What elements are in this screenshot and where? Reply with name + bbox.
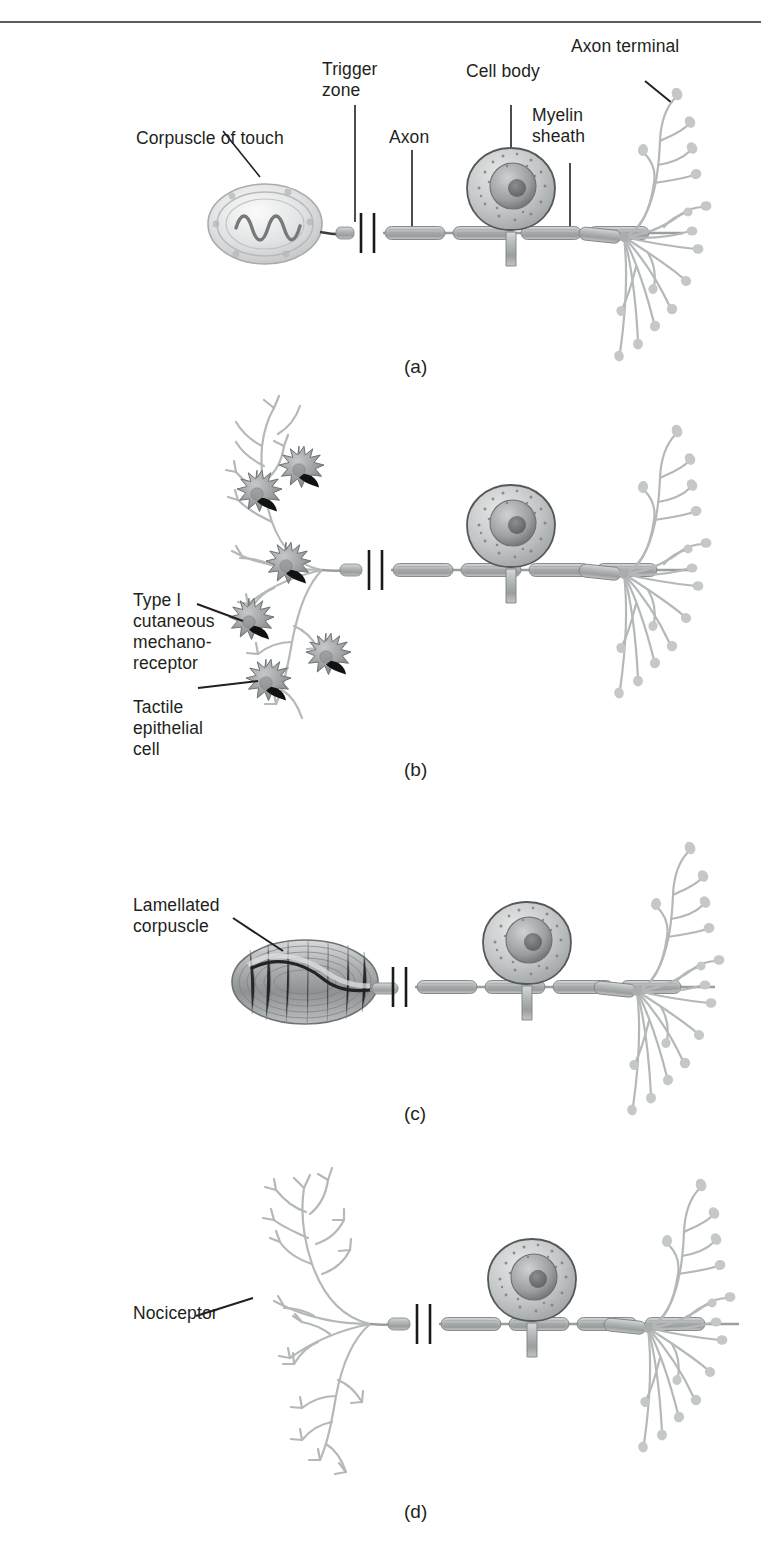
label-tactile-line3: cell [133, 739, 160, 760]
label-tactile-line1: Tactile [133, 697, 183, 718]
label-cell-body: Cell body [466, 61, 540, 82]
panel-a-artwork [208, 81, 711, 362]
panel-d-artwork [196, 1168, 739, 1474]
leader-tactile-epithelial-cell [198, 681, 258, 688]
leader-axon-terminal [645, 81, 672, 103]
label-myelin-sheath-line1: Myelin [532, 105, 583, 126]
label-type-i-line1: Type I [133, 590, 181, 611]
label-nociceptor: Nociceptor [133, 1303, 218, 1324]
lamellated-corpuscle-icon [232, 940, 378, 1024]
caption-panel-d: (d) [404, 1501, 427, 1523]
panel-c-artwork [232, 840, 724, 1116]
label-trigger-zone-line1: Trigger [322, 59, 377, 80]
type-i-receptor-group [229, 446, 351, 700]
label-corpuscle-of-touch: Corpuscle of touch [136, 128, 284, 149]
corpuscle-of-touch-icon [208, 184, 322, 264]
label-lamellated-line1: Lamellated [133, 895, 220, 916]
label-type-i-line3: mechano- [133, 632, 212, 653]
figure-artwork [0, 0, 761, 1567]
sensory-neuron-figure: Corpuscle of touch Trigger zone Axon Cel… [0, 0, 761, 1567]
label-trigger-zone-line2: zone [322, 80, 360, 101]
label-myelin-sheath-line2: sheath [532, 126, 585, 147]
leader-lamellated-corpuscle [233, 918, 283, 951]
axon-terminal-icon [613, 86, 711, 362]
nociceptor-icon [263, 1168, 370, 1474]
label-type-i-line2: cutaneous [133, 611, 215, 632]
panel-b-artwork [197, 396, 711, 718]
caption-panel-a: (a) [404, 356, 427, 378]
label-axon-terminal: Axon terminal [571, 36, 679, 57]
label-axon: Axon [389, 127, 429, 148]
caption-panel-b: (b) [404, 759, 427, 781]
caption-panel-c: (c) [404, 1103, 426, 1125]
label-lamellated-line2: corpuscle [133, 916, 209, 937]
label-type-i-line4: receptor [133, 653, 198, 674]
trigger-zone-bars [361, 213, 374, 253]
cell-body-icon [467, 148, 555, 266]
label-tactile-line2: epithelial [133, 718, 203, 739]
